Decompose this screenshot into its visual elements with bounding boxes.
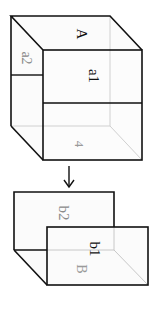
label-floor: B <box>74 264 89 273</box>
label-side-upper: a2 <box>19 51 34 64</box>
down-arrow-icon <box>64 166 74 187</box>
cube-figure: A a1 a2 4 <box>11 16 142 160</box>
diagram-canvas: A a1 a2 4 b2 b1 B <box>0 0 152 309</box>
label-front-sheet: b1 <box>87 242 103 257</box>
label-back-sheet: b2 <box>56 206 72 221</box>
folded-sheets-figure: b2 b1 B <box>14 192 148 285</box>
label-top-face: A <box>74 29 90 40</box>
label-bottom-face: 4 <box>72 141 87 148</box>
label-front-upper: a1 <box>86 69 102 83</box>
